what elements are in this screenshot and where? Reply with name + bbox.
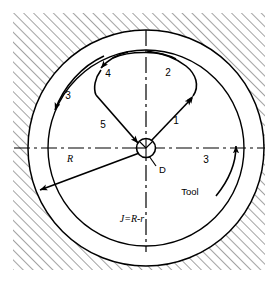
label-path-3-left: 3	[65, 90, 71, 101]
label-diameter-D: D	[159, 164, 166, 175]
center-hub	[137, 139, 156, 158]
label-tool: Tool	[181, 186, 198, 197]
label-path-2: 2	[165, 67, 171, 78]
toolpath-figure: 1 2 3 3 4 5 R D Tool J=R-r	[0, 0, 280, 287]
label-path-1: 1	[173, 115, 179, 126]
label-path-3-right: 3	[203, 154, 209, 165]
label-clearance-formula: J=R-r	[120, 213, 145, 224]
label-radius-R: R	[66, 153, 73, 164]
diagram-canvas: 1 2 3 3 4 5 R D Tool J=R-r	[0, 0, 280, 287]
label-path-4: 4	[105, 68, 111, 79]
label-path-5: 5	[100, 119, 106, 130]
